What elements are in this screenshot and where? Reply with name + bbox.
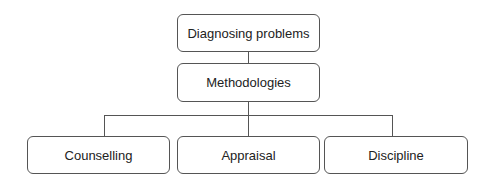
root-node-label: Diagnosing problems [187, 26, 309, 41]
root-node: Diagnosing problems [177, 14, 320, 52]
connector-root-to-middle [248, 52, 249, 63]
child-node-label: Discipline [368, 148, 424, 163]
connector-to-child-1 [104, 115, 105, 137]
connector-to-child-2 [248, 115, 249, 137]
middle-node-label: Methodologies [206, 75, 291, 90]
child-node-counselling: Counselling [27, 136, 170, 174]
child-node-discipline: Discipline [324, 136, 468, 174]
child-node-label: Appraisal [221, 148, 275, 163]
child-node-label: Counselling [65, 148, 133, 163]
connector-middle-down [248, 102, 249, 116]
child-node-appraisal: Appraisal [177, 136, 320, 174]
connector-to-child-3 [392, 115, 393, 137]
middle-node: Methodologies [177, 63, 320, 102]
